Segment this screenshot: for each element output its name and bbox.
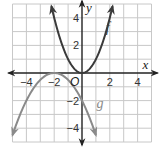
x-axis-label: x <box>142 57 149 72</box>
x-tick-label: 2 <box>107 76 113 88</box>
x-tick-label: −4 <box>20 76 33 88</box>
x-tick-label: 4 <box>135 76 141 88</box>
y-tick-label: −4 <box>66 122 79 134</box>
y-tick-label: 4 <box>73 12 79 24</box>
curve-label-g: g <box>97 96 104 111</box>
y-axis-label: y <box>84 0 92 15</box>
curve-label-f: f <box>106 20 112 35</box>
x-tick-label: −2 <box>48 76 61 88</box>
curves <box>13 6 113 135</box>
y-tick-label: −2 <box>66 95 79 107</box>
chart: fg−4−22442−2−4Oxy <box>0 0 162 147</box>
y-tick-label: 2 <box>73 39 79 51</box>
origin-label: O <box>70 75 79 89</box>
